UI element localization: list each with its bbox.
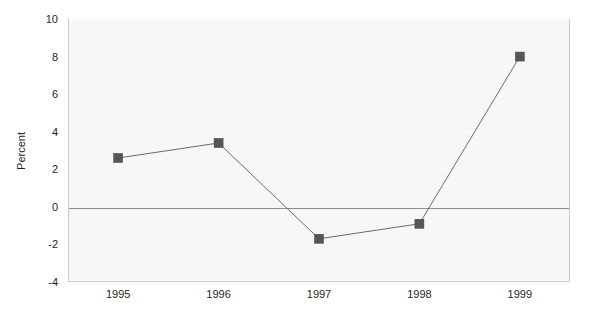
gridline: [69, 19, 569, 20]
y-axis-tick-labels: 1086420-2-4: [0, 0, 62, 322]
x-axis-tick-label: 1999: [508, 289, 532, 300]
x-axis-tick-label: 1995: [106, 289, 130, 300]
gridline: [69, 282, 569, 283]
y-axis-tick-label: 8: [0, 51, 58, 62]
zero-reference-line: [69, 208, 569, 209]
gridline: [69, 169, 569, 170]
y-axis-tick-label: 2: [0, 164, 58, 175]
y-axis-tick-label: -4: [0, 277, 58, 288]
plot-area: [68, 19, 570, 282]
y-axis-tick-label: 6: [0, 89, 58, 100]
line-chart: 1086420-2-4 Percent 19951996199719981999: [0, 0, 597, 322]
gridline: [69, 94, 569, 95]
gridline: [69, 57, 569, 58]
x-axis-tick-label: 1998: [407, 289, 431, 300]
gridline: [69, 244, 569, 245]
y-axis-title: Percent: [15, 132, 27, 170]
x-axis-tick-label: 1997: [307, 289, 331, 300]
y-axis-tick-label: 0: [0, 201, 58, 212]
y-axis-tick-label: 10: [0, 14, 58, 25]
gridline: [69, 132, 569, 133]
x-axis-tick-label: 1996: [206, 289, 230, 300]
y-axis-tick-label: -2: [0, 239, 58, 250]
x-axis-tick-labels: 19951996199719981999: [0, 289, 597, 309]
y-axis-tick-label: 4: [0, 126, 58, 137]
